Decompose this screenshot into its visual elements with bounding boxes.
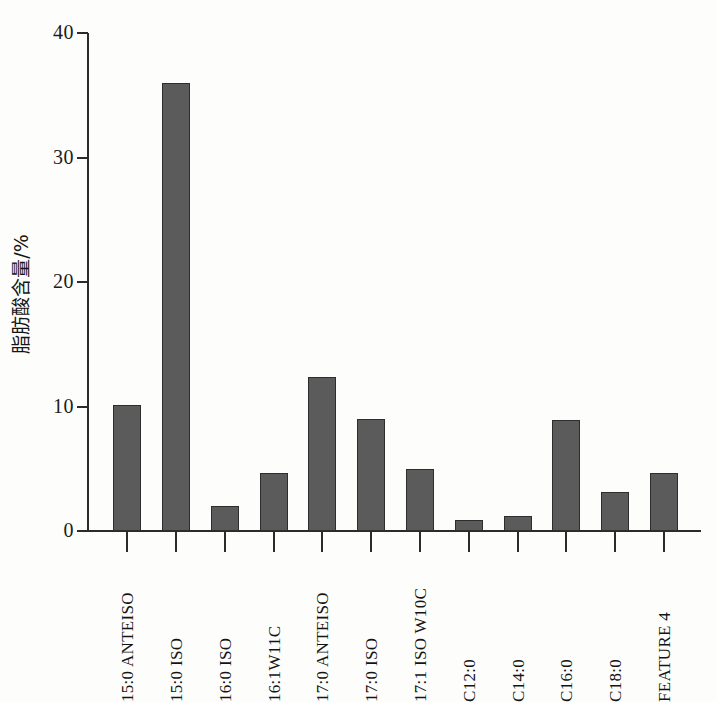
x-axis-tick-label: 16:0 ISO	[213, 556, 237, 702]
x-axis-tick-label-text: 15:0 ISO	[168, 638, 185, 702]
y-axis-tick-label: 40	[30, 22, 74, 42]
x-axis-tick-label: 15:0 ISO	[164, 556, 188, 702]
bars-layer	[89, 33, 701, 531]
y-axis-tick-label: 30	[30, 147, 74, 167]
x-axis-tick	[614, 532, 616, 552]
x-axis-tick-label: C14:0	[506, 556, 530, 702]
x-axis-tick	[370, 532, 372, 552]
x-axis-tick-label-text: 17:1 ISO W10C	[411, 588, 428, 702]
chart-figure: 脂肪酸含量/% 010203040 15:0 ANTEISO15:0 ISO16…	[0, 0, 717, 702]
bar	[406, 469, 434, 531]
x-axis-tick-label-text: 16:1W11C	[265, 626, 282, 702]
x-axis-tick-label-text: C12:0	[460, 659, 477, 702]
bar	[504, 516, 532, 531]
x-axis-tick-label: 17:1 ISO W10C	[408, 556, 432, 702]
y-axis-tick-labels: 010203040	[22, 0, 74, 702]
bar	[162, 83, 190, 531]
x-axis-tick-label-text: 16:0 ISO	[216, 638, 233, 702]
x-axis-tick-label: FEATURE 4	[652, 556, 676, 702]
x-axis-tick	[419, 532, 421, 552]
x-axis-tick-labels: 15:0 ANTEISO15:0 ISO16:0 ISO16:1W11C17:0…	[89, 556, 701, 702]
x-axis-tick-label: 15:0 ANTEISO	[115, 556, 139, 702]
x-axis-tick	[468, 532, 470, 552]
x-axis-tick	[175, 532, 177, 552]
y-axis-tick	[77, 406, 88, 408]
x-axis-tick	[565, 532, 567, 552]
bar	[308, 377, 336, 531]
x-axis-tick-label-text: C18:0	[607, 659, 624, 702]
x-axis-tick	[126, 532, 128, 552]
y-axis-tick	[77, 157, 88, 159]
y-axis-tick	[77, 281, 88, 283]
y-axis-tick-label: 10	[30, 396, 74, 416]
x-axis-tick	[663, 532, 665, 552]
x-axis-tick-label-text: 15:0 ANTEISO	[119, 592, 136, 702]
bar	[260, 473, 288, 532]
x-axis-tick-label: C18:0	[603, 556, 627, 702]
x-axis-tick	[517, 532, 519, 552]
y-axis-tick-label: 20	[30, 271, 74, 291]
bar	[113, 405, 141, 531]
x-axis-tick-label-text: 17:0 ISO	[363, 638, 380, 702]
bar	[357, 419, 385, 531]
y-axis-tick	[77, 32, 88, 34]
x-axis-tick-label: C12:0	[457, 556, 481, 702]
bar	[552, 420, 580, 531]
y-axis-tick	[77, 530, 88, 532]
x-axis-ticks	[89, 532, 701, 554]
x-axis-tick-label-text: C14:0	[509, 659, 526, 702]
x-axis-tick-label-text: C16:0	[558, 659, 575, 702]
x-axis-tick-label: 17:0 ISO	[359, 556, 383, 702]
bar	[650, 473, 678, 532]
x-axis-tick-label-text: 17:0 ANTEISO	[314, 592, 331, 702]
y-axis-tick-label: 0	[30, 520, 74, 540]
x-axis-tick-label: 17:0 ANTEISO	[310, 556, 334, 702]
bar	[601, 492, 629, 531]
bar	[455, 520, 483, 531]
x-axis-tick-label-text: FEATURE 4	[655, 612, 672, 702]
x-axis-tick	[321, 532, 323, 552]
x-axis-tick	[273, 532, 275, 552]
x-axis-tick-label: 16:1W11C	[262, 556, 286, 702]
x-axis-tick-label: C16:0	[554, 556, 578, 702]
bar	[211, 506, 239, 531]
x-axis-tick	[224, 532, 226, 552]
